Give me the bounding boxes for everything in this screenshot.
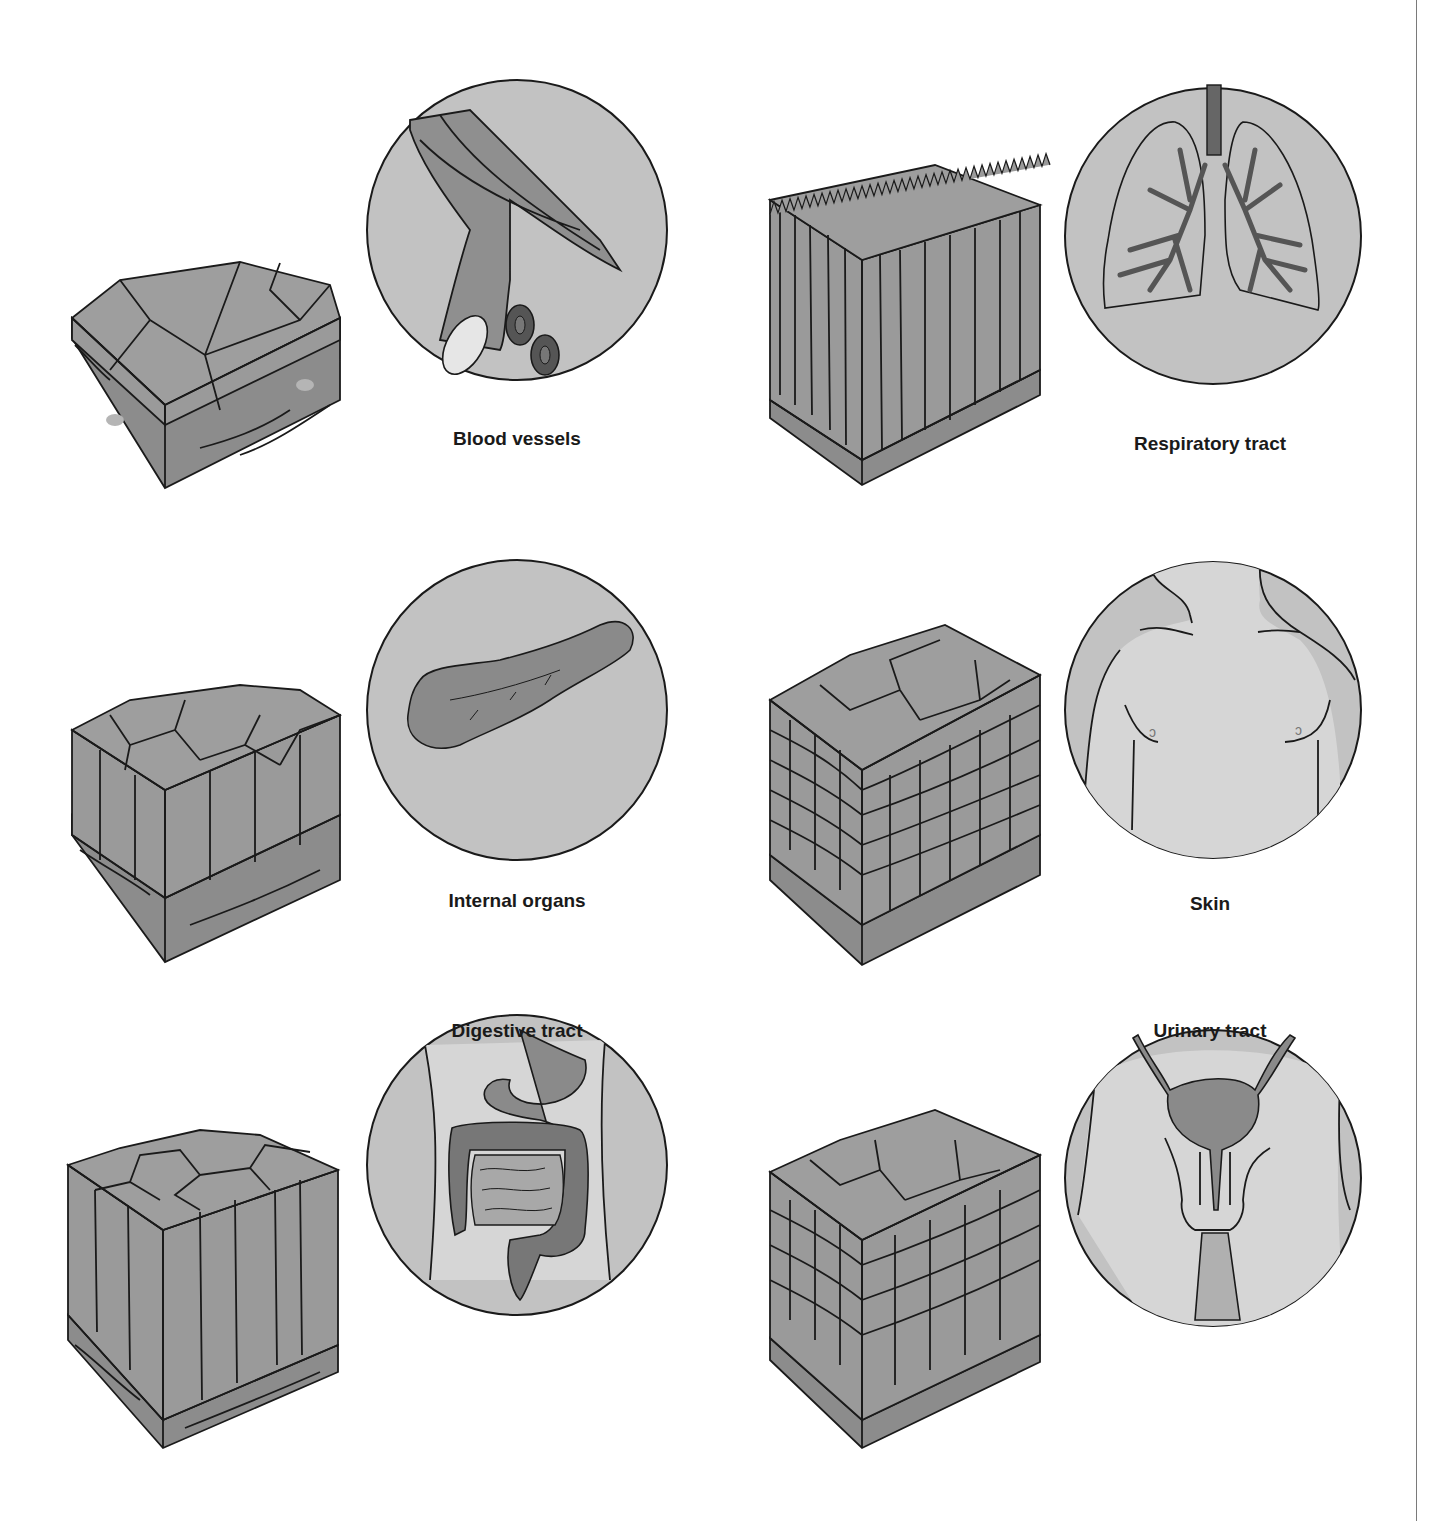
svg-text:ↄ: ↄ xyxy=(1149,724,1156,740)
label-skin: Skin xyxy=(1080,893,1340,915)
label-internal-organs: Internal organs xyxy=(387,890,647,912)
svg-text:ↄ: ↄ xyxy=(1295,722,1302,738)
label-respiratory-tract: Respiratory tract xyxy=(1080,433,1340,455)
bladder-icon xyxy=(0,0,1,1)
label-digestive-tract: Digestive tract xyxy=(387,1020,647,1042)
label-blood-vessels: Blood vessels xyxy=(387,428,647,450)
page-edge-divider xyxy=(1416,0,1417,1521)
label-urinary-tract: Urinary tract xyxy=(1080,1020,1340,1042)
